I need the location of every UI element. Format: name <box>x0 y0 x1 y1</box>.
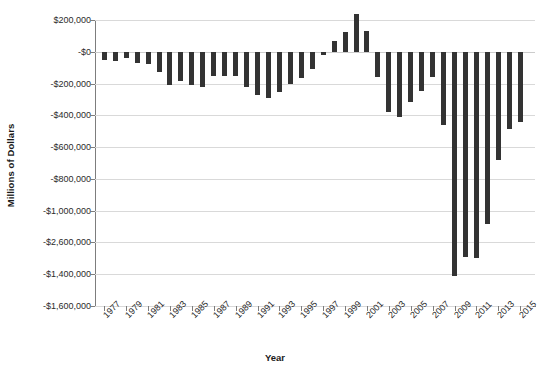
bar <box>288 52 293 84</box>
bar <box>332 41 337 52</box>
bar <box>255 52 260 95</box>
bar <box>167 52 172 85</box>
y-axis-tick-mark <box>90 179 95 180</box>
bar <box>310 52 315 69</box>
gridline <box>95 20 535 21</box>
y-axis-tick-label: -$2,600,000 <box>19 237 91 247</box>
bar <box>135 52 140 64</box>
y-axis-tick-mark <box>90 274 95 275</box>
bar <box>222 52 227 77</box>
bar <box>441 52 446 125</box>
bar <box>102 52 107 61</box>
bar <box>430 52 435 78</box>
bar <box>364 31 369 51</box>
bar <box>375 52 380 77</box>
bar <box>146 52 151 65</box>
y-axis-tick-labels: $200,000-$0-$200,000-$400,000-$600,000-$… <box>13 0 91 376</box>
bar <box>474 52 479 258</box>
y-axis-tick-mark <box>90 211 95 212</box>
y-axis-tick-label: -$1,000,000 <box>19 206 91 216</box>
y-axis-tick-mark <box>90 115 95 116</box>
bar <box>178 52 183 81</box>
bar <box>452 52 457 276</box>
y-axis-tick-mark <box>90 306 95 307</box>
bar <box>211 52 216 76</box>
bar <box>343 32 348 52</box>
chart-container: Millions of Dollars $200,000-$0-$200,000… <box>0 0 550 376</box>
bar <box>200 52 205 87</box>
plot-area <box>95 20 535 306</box>
bar <box>113 52 118 61</box>
bar <box>386 52 391 112</box>
bar <box>277 52 282 93</box>
y-axis-tick-mark <box>90 52 95 53</box>
bar <box>124 52 129 58</box>
y-axis-tick-mark <box>90 20 95 21</box>
x-axis-title: Year <box>0 352 550 363</box>
bar <box>354 14 359 52</box>
bar <box>244 52 249 87</box>
bar <box>266 52 271 98</box>
bar <box>397 52 402 118</box>
gridline <box>95 274 535 275</box>
y-axis-tick-label: -$400,000 <box>19 110 91 120</box>
gridline <box>95 147 535 148</box>
bar <box>408 52 413 103</box>
bar <box>189 52 194 86</box>
y-axis-tick-label: -$1,600,000 <box>19 301 91 311</box>
y-axis-tick-mark <box>90 242 95 243</box>
bar <box>496 52 501 160</box>
y-axis-tick-label: -$0 <box>19 47 91 57</box>
bar <box>463 52 468 258</box>
bar <box>233 52 238 76</box>
gridline <box>95 211 535 212</box>
y-axis-tick-label: $200,000 <box>19 15 91 25</box>
y-axis-tick-label: -$600,000 <box>19 142 91 152</box>
gridline <box>95 84 535 85</box>
y-axis-tick-label: -$800,000 <box>19 174 91 184</box>
bar <box>299 52 304 78</box>
gridline <box>95 115 535 116</box>
gridline <box>95 179 535 180</box>
y-axis-tick-mark <box>90 147 95 148</box>
bar <box>507 52 512 129</box>
gridline <box>95 242 535 243</box>
bar <box>419 52 424 91</box>
bar <box>518 52 523 122</box>
bar <box>485 52 490 225</box>
y-axis-tick-mark <box>90 84 95 85</box>
bar <box>321 52 326 55</box>
y-axis-tick-label: -$200,000 <box>19 79 91 89</box>
y-axis-tick-label: -$1,400,000 <box>19 269 91 279</box>
bar <box>157 52 162 72</box>
